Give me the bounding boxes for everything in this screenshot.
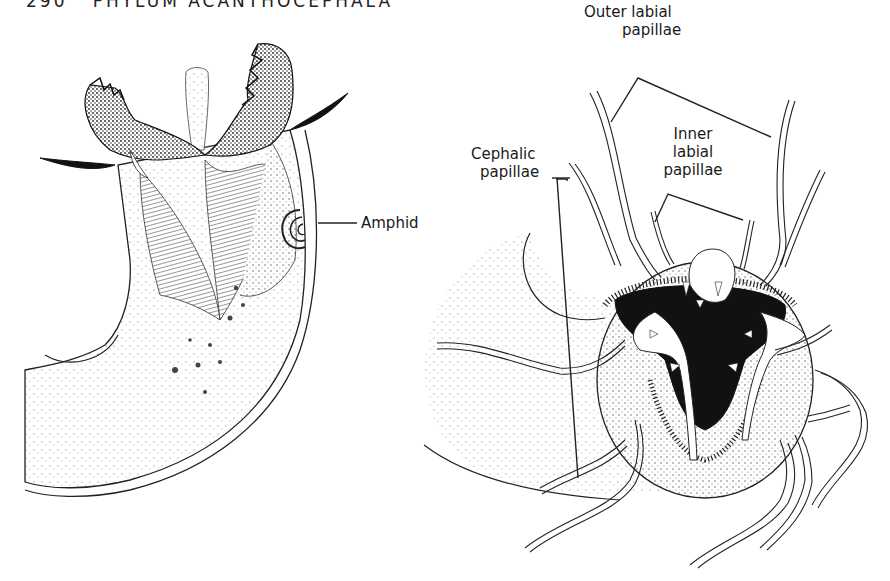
inner-labial-leader	[655, 194, 743, 222]
label-cephalic-line2: papillae	[471, 163, 539, 181]
left-drawing	[25, 44, 348, 497]
label-outer-labial-line2: papillae	[584, 21, 734, 39]
label-amphid: Amphid	[361, 214, 419, 232]
label-inner-labial-papillae: Inner labial papillae	[648, 125, 738, 179]
label-outer-labial-papillae: Outer labial papillae	[584, 3, 734, 39]
label-cephalic-papillae: Cephalic papillae	[471, 145, 539, 181]
label-inner-labial-line2: labial	[648, 143, 738, 161]
label-cephalic-line1: Cephalic	[471, 145, 539, 163]
label-inner-labial-line1: Inner	[648, 125, 738, 143]
label-inner-labial-line3: papillae	[648, 161, 738, 179]
label-outer-labial-line1: Outer labial	[584, 3, 734, 21]
figure-illustration	[0, 0, 890, 581]
